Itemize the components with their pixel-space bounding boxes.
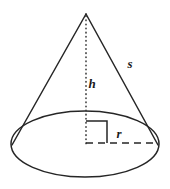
cone-diagram-figure: h s r bbox=[0, 0, 170, 189]
cone-right-slant-line bbox=[86, 14, 158, 145]
height-label: h bbox=[88, 76, 95, 91]
cone-base-ellipse bbox=[11, 111, 159, 177]
slant-height-label: s bbox=[126, 56, 132, 71]
radius-label: r bbox=[116, 126, 122, 141]
right-angle-marker-icon bbox=[86, 121, 107, 143]
cone-left-slant-line bbox=[12, 14, 86, 145]
cone-diagram-canvas: h s r bbox=[0, 0, 170, 189]
